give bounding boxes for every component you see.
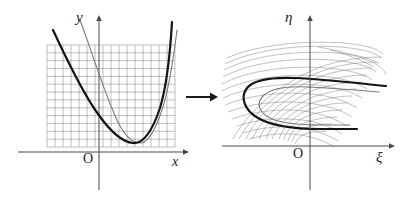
left-x-axis-label: x	[172, 155, 178, 169]
left-grid	[47, 45, 175, 147]
right-origin-label: O	[293, 147, 303, 161]
left-axes	[18, 21, 183, 190]
right-x-axis-arrowhead	[389, 143, 395, 149]
left-x-axis-arrowhead	[183, 149, 189, 155]
right-grid	[222, 42, 386, 147]
conformal-mapping-figure	[0, 0, 408, 197]
right-panel	[222, 15, 395, 190]
left-y-axis-label: y	[76, 10, 83, 25]
left-y-axis-arrowhead	[96, 15, 102, 21]
parabola-thin-left	[80, 20, 177, 143]
right-y-axis-arrowhead	[307, 15, 313, 21]
cusp-curve-thin-right	[259, 87, 379, 125]
right-x-axis-label: ξ	[376, 150, 382, 165]
left-panel	[18, 15, 189, 190]
left-origin-label: O	[83, 152, 93, 166]
mapping-arrow	[186, 93, 218, 102]
right-y-axis-label: η	[285, 10, 292, 25]
